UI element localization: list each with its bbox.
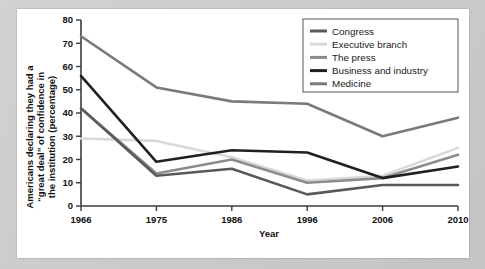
legend-label: Congress (332, 26, 374, 37)
x-axis-ticks: 196619751986199620062010 (70, 206, 468, 225)
y-axis-title-line-3: the institution (percentage) (46, 76, 57, 198)
x-tick-label: 1966 (70, 214, 91, 225)
y-axis-title-line-1: Americans declaring they had a (24, 65, 35, 209)
figure-root: Americans declaring they had a “great de… (0, 0, 485, 269)
legend-label: The press (332, 52, 376, 63)
x-tick-label: 1996 (297, 214, 318, 225)
y-axis-title-line-2: “great deal” of confidence in (35, 72, 46, 202)
series-line (81, 108, 458, 182)
chart-legend: CongressExecutive branchThe pressBusines… (303, 19, 458, 92)
y-tick-label: 60 (62, 61, 73, 72)
legend-label: Business and industry (332, 65, 428, 76)
x-tick-label: 2010 (447, 214, 468, 225)
x-tick-label: 2006 (372, 214, 393, 225)
y-tick-label: 80 (62, 14, 73, 25)
y-tick-label: 20 (62, 154, 73, 165)
y-tick-label: 0 (68, 200, 73, 211)
y-tick-label: 30 (62, 131, 73, 142)
chart-panel: Americans declaring they had a “great de… (17, 9, 469, 258)
x-tick-label: 1986 (221, 214, 242, 225)
line-chart: Americans declaring they had a “great de… (17, 9, 469, 258)
x-axis-title: Year (259, 228, 279, 239)
x-tick-label: 1975 (146, 214, 168, 225)
y-axis-title: Americans declaring they had a “great de… (24, 65, 57, 209)
y-tick-label: 70 (62, 38, 73, 49)
y-tick-label: 40 (62, 107, 73, 118)
legend-label: Executive branch (332, 39, 407, 50)
legend-label: Medicine (332, 78, 372, 89)
y-tick-label: 10 (62, 177, 73, 188)
y-axis-ticks: 01020304050607080 (62, 14, 81, 211)
y-tick-label: 50 (62, 84, 73, 95)
